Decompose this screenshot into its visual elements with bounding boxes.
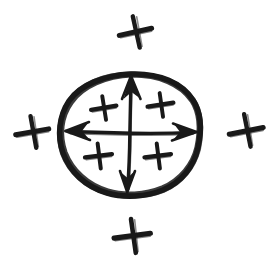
figure-root: Hand-drawn sketch of an ellipse with int… — [0, 0, 280, 267]
hand-drawn-diagram — [0, 0, 280, 267]
